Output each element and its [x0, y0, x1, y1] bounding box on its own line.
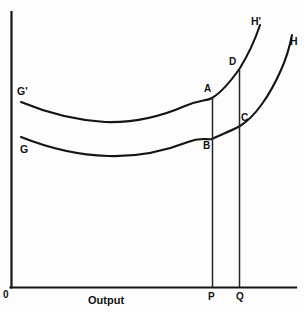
x-tick-label-q: Q — [236, 292, 244, 302]
curve-g-prime-h-prime — [21, 25, 260, 122]
curve-g-h — [21, 35, 292, 156]
point-label-c: C — [241, 113, 248, 123]
x-tick-label-p: P — [208, 292, 215, 302]
point-label-b: B — [203, 141, 210, 151]
x-axis-title: Output — [88, 295, 124, 306]
curve-label-h-prime: H' — [251, 16, 261, 27]
curve-label-h: H — [290, 36, 298, 47]
curve-label-g: G — [20, 144, 28, 155]
curve-label-g-prime: G' — [17, 86, 28, 97]
axes-group — [11, 12, 297, 288]
cost-curve-diagram — [0, 0, 304, 312]
point-label-a: A — [204, 84, 211, 94]
figure-canvas: G' G H' H A B C D P Q 0 Output — [0, 0, 304, 312]
point-label-d: D — [229, 57, 236, 67]
origin-label: 0 — [3, 290, 9, 300]
